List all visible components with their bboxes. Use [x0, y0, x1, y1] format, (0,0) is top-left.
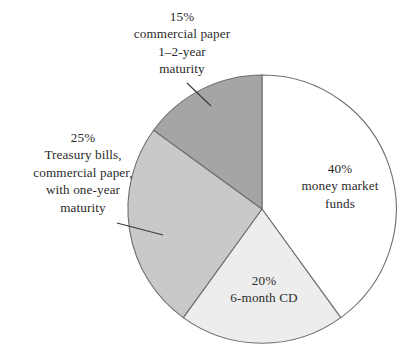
slice-percent-money-market-funds: 40%: [288, 160, 392, 177]
slice-label-line-2: 1–2-year: [93, 43, 271, 60]
slice-label-6-month-cd: 20% 6-month CD: [212, 272, 316, 307]
slice-label-line-3: maturity: [93, 60, 271, 77]
pie-chart-figure: 15% commercial paper 1–2-year maturity 2…: [0, 0, 415, 361]
slice-label-line-1: 6-month CD: [212, 289, 316, 306]
slice-label-line-1: money market: [288, 177, 392, 194]
slice-percent-treasury-bills: 25%: [0, 129, 168, 146]
slice-label-line-2: commercial paper,: [0, 164, 168, 181]
slice-label-line-3: with one-year: [0, 181, 168, 198]
slice-percent-commercial-paper: 15%: [93, 8, 271, 25]
slice-label-line-1: commercial paper: [93, 25, 271, 42]
slice-label-money-market-funds: 40% money market funds: [288, 160, 392, 212]
slice-label-line-4: maturity: [0, 199, 168, 216]
slice-label-line-1: Treasury bills,: [0, 146, 168, 163]
slice-label-treasury-bills: 25% Treasury bills, commercial paper, wi…: [0, 129, 168, 216]
slice-percent-6-month-cd: 20%: [212, 272, 316, 289]
slice-label-line-2: funds: [288, 195, 392, 212]
slice-label-commercial-paper: 15% commercial paper 1–2-year maturity: [93, 8, 271, 78]
